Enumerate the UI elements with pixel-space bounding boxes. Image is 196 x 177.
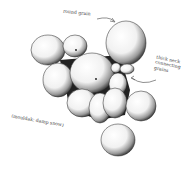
grain-dot xyxy=(95,78,97,80)
neck-grain xyxy=(120,64,134,74)
arrow-round-grain xyxy=(97,18,114,21)
grain xyxy=(43,63,73,97)
arrowhead xyxy=(131,76,135,80)
grain-dot xyxy=(75,49,77,51)
grain xyxy=(70,53,114,93)
round-grain xyxy=(106,21,146,65)
grain-group xyxy=(31,21,156,156)
grain xyxy=(31,35,65,65)
grain xyxy=(101,124,135,156)
arrow-thick-neck xyxy=(132,78,156,83)
neck-grain xyxy=(111,63,121,73)
grain xyxy=(63,35,87,57)
snow-grain-illustration xyxy=(0,0,196,177)
grain xyxy=(126,91,156,121)
grain xyxy=(103,88,127,118)
